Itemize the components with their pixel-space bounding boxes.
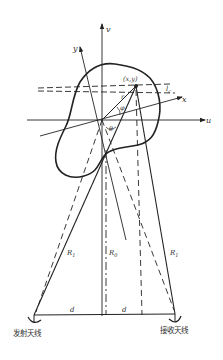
point-label: (x,y) — [123, 75, 138, 83]
u-axis-label: u — [206, 116, 211, 125]
phi-label: φ — [120, 104, 125, 112]
target-outline — [56, 64, 160, 178]
bistatic-radar-geometry-diagram: v u y x (x,y) r φ θ lc R1 R0 R1 d d 发射天线… — [0, 0, 223, 360]
receive-antenna-label: 接收天线 — [160, 325, 189, 335]
x-axis-label: x — [182, 95, 187, 104]
transmit-antenna-label: 发射天线 — [13, 328, 42, 338]
origin-to-tx-dashed — [36, 120, 102, 312]
transmit-antenna-icon — [28, 315, 41, 322]
R1-left-label: R1 — [66, 249, 75, 258]
lc-line-2 — [38, 91, 175, 93]
R0-label: R0 — [108, 249, 118, 258]
baseline — [34, 314, 175, 315]
d-right-label: d — [122, 306, 127, 314]
r-vector — [102, 86, 136, 120]
origin-to-rx-dashed — [102, 120, 174, 310]
lc-line-1 — [38, 84, 170, 88]
point-vertical-dashed — [136, 90, 142, 315]
R1-right-label: R1 — [169, 249, 178, 258]
v-axis-label: v — [106, 25, 111, 34]
lc-label: lc — [166, 85, 171, 94]
y-axis — [80, 47, 126, 240]
receive-antenna-icon — [169, 314, 181, 322]
d-left-label: d — [70, 306, 75, 314]
theta-label: θ — [109, 125, 113, 133]
y-axis-label: y — [72, 44, 78, 53]
